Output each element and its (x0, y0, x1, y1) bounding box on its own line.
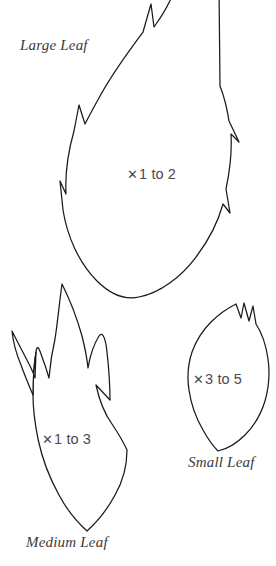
small-leaf-name-label: Small Leaf (188, 455, 255, 470)
leaf-template-sheet: Large Leaf ✕1 to 2 Medium Leaf ✕1 to 3 S… (0, 0, 276, 566)
large-leaf-quantity-value: 1 to 2 (139, 166, 176, 182)
medium-leaf-left-lobe (12, 331, 36, 395)
multiply-icon: ✕ (193, 372, 204, 387)
leaf-outlines-svg (0, 0, 276, 566)
multiply-icon: ✕ (127, 167, 138, 182)
medium-leaf-quantity-value: 1 to 3 (54, 431, 91, 447)
medium-leaf-quantity-label: ✕1 to 3 (42, 432, 91, 447)
large-leaf-name-label: Large Leaf (20, 38, 88, 53)
medium-leaf-outline (33, 284, 127, 531)
multiply-icon: ✕ (42, 432, 53, 447)
small-leaf-quantity-label: ✕3 to 5 (193, 372, 242, 387)
large-leaf-quantity-label: ✕1 to 2 (127, 167, 176, 182)
small-leaf-quantity-value: 3 to 5 (205, 371, 242, 387)
medium-leaf-name-label: Medium Leaf (26, 535, 108, 550)
